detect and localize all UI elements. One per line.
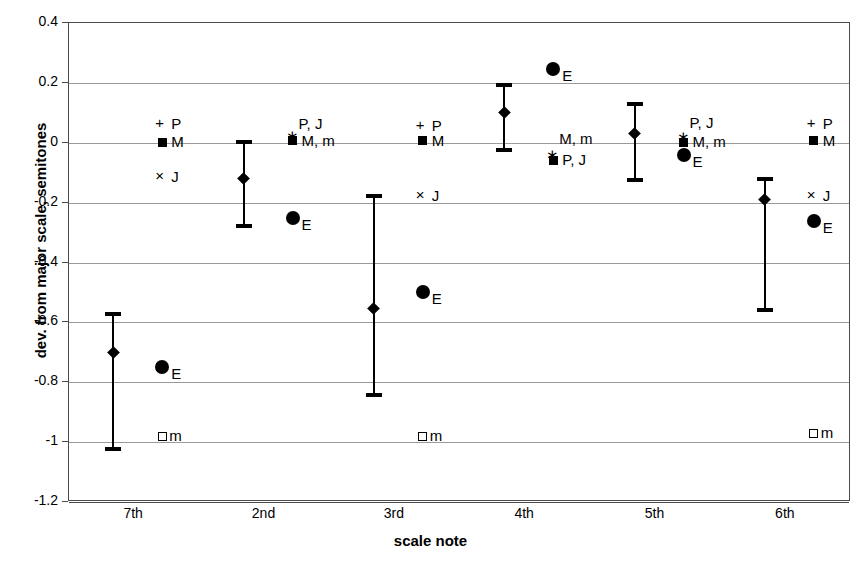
- y-tick-mark: [62, 142, 68, 143]
- annotation-label: J: [432, 188, 440, 203]
- gridline: [69, 263, 849, 264]
- just-times-marker: ×: [416, 187, 425, 202]
- annotation-label: E: [432, 291, 442, 306]
- error-bar-cap-upper: [236, 140, 252, 144]
- y-tick-label: -1.2: [0, 493, 58, 507]
- gridline: [69, 382, 849, 383]
- error-bar-line: [373, 194, 375, 398]
- y-tick-label: -1: [0, 433, 58, 447]
- annotation-label: P: [823, 116, 833, 131]
- gridline: [69, 83, 849, 84]
- major-square-marker: [288, 136, 297, 145]
- annotation-label: m: [169, 428, 182, 443]
- equal-circle-marker: [416, 285, 430, 299]
- annotation-label: M: [171, 134, 184, 149]
- annotation-label: M, m: [559, 131, 592, 146]
- annotation-label: m: [430, 428, 443, 443]
- equal-circle-marker: [155, 360, 169, 374]
- error-bar-line: [634, 102, 636, 181]
- y-tick-mark: [62, 202, 68, 203]
- annotation-label: M, m: [302, 133, 335, 148]
- error-bar-cap-upper: [627, 102, 643, 106]
- y-tick-mark: [62, 441, 68, 442]
- x-tick-label-6th: 6th: [745, 505, 825, 521]
- error-bar-line: [112, 312, 114, 451]
- chart-figure: dev. from major scale, semitones +PM×JEm…: [0, 0, 861, 563]
- annotation-label: P: [432, 118, 442, 133]
- y-tick-mark: [62, 82, 68, 83]
- minor-open-square-marker: [809, 429, 818, 438]
- annotation-label: E: [171, 366, 181, 381]
- gridline: [69, 322, 849, 323]
- gridline: [69, 143, 849, 144]
- annotation-label: E: [823, 220, 833, 235]
- mean-marker: [237, 172, 250, 185]
- major-square-marker: [809, 136, 818, 145]
- x-axis-label: scale note: [0, 532, 861, 549]
- pythagorean-plus-marker: +: [807, 115, 816, 130]
- error-bar-cap-lower: [757, 308, 773, 312]
- equal-circle-marker: [546, 62, 560, 76]
- pythagorean-plus-marker: +: [155, 115, 164, 130]
- x-tick-label-3rd: 3rd: [354, 505, 434, 521]
- y-tick-label: -0.2: [0, 194, 58, 208]
- gridline: [69, 203, 849, 204]
- annotation-label: M: [823, 133, 836, 148]
- annotation-label: P, J: [562, 152, 586, 167]
- y-tick-label: 0.4: [0, 14, 58, 28]
- y-tick-label: -0.6: [0, 313, 58, 327]
- error-bar-cap-upper: [105, 312, 121, 316]
- y-tick-label: -0.4: [0, 254, 58, 268]
- annotation-label: E: [562, 68, 572, 83]
- major-square-marker: [549, 156, 558, 165]
- just-times-marker: ×: [155, 168, 164, 183]
- error-bar-cap-lower: [236, 224, 252, 228]
- mean-marker: [107, 346, 120, 359]
- error-bar-cap-lower: [496, 148, 512, 152]
- annotation-label: J: [823, 188, 831, 203]
- annotation-label: P: [171, 116, 181, 131]
- annotation-label: m: [821, 425, 834, 440]
- annotation-label: E: [693, 154, 703, 169]
- error-bar-cap-lower: [105, 447, 121, 451]
- annotation-label: P, J: [690, 115, 714, 130]
- annotation-label: E: [302, 217, 312, 232]
- x-tick-label-7th: 7th: [93, 505, 173, 521]
- y-tick-mark: [62, 501, 68, 502]
- minor-open-square-marker: [158, 432, 167, 441]
- equal-circle-marker: [286, 211, 300, 225]
- y-tick-label: 0.2: [0, 74, 58, 88]
- y-tick-mark: [62, 321, 68, 322]
- y-tick-mark: [62, 381, 68, 382]
- mean-marker: [367, 303, 380, 316]
- major-square-marker: [158, 138, 167, 147]
- x-tick-label-2nd: 2nd: [224, 505, 304, 521]
- equal-circle-marker: [677, 148, 691, 162]
- just-times-marker: ×: [807, 187, 816, 202]
- equal-circle-marker: [807, 214, 821, 228]
- error-bar-cap-upper: [366, 194, 382, 198]
- annotation-label: J: [171, 169, 179, 184]
- error-bar-cap-upper: [757, 177, 773, 181]
- plot-area: +PM×JEmP, J∗M, mE+PM×JEmEM, m∗P, JP, J∗M…: [68, 22, 850, 501]
- y-tick-mark: [62, 22, 68, 23]
- gridline: [69, 442, 849, 443]
- annotation-label: M: [432, 133, 445, 148]
- x-tick-label-5th: 5th: [615, 505, 695, 521]
- pythagorean-plus-marker: +: [416, 117, 425, 132]
- x-tick-label-4th: 4th: [484, 505, 564, 521]
- mean-marker: [498, 106, 511, 119]
- minor-open-square-marker: [418, 432, 427, 441]
- y-tick-label: 0: [0, 134, 58, 148]
- major-square-marker: [418, 136, 427, 145]
- error-bar-cap-lower: [366, 393, 382, 397]
- y-tick-mark: [62, 262, 68, 263]
- mean-marker: [628, 127, 641, 140]
- annotation-label: P, J: [299, 116, 323, 131]
- mean-marker: [758, 193, 771, 206]
- major-square-marker: [679, 138, 688, 147]
- y-tick-label: -0.8: [0, 373, 58, 387]
- gridline: [69, 502, 849, 503]
- annotation-label: M, m: [693, 134, 726, 149]
- error-bar-cap-upper: [496, 83, 512, 87]
